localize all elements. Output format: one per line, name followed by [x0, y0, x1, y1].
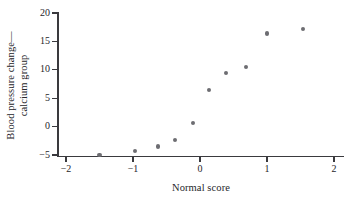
- y-tick-mark: [52, 12, 57, 13]
- x-tick-mark: [333, 157, 334, 162]
- y-tick-label: 10: [26, 63, 50, 75]
- data-point: [173, 138, 177, 142]
- y-tick-label-text: −5: [26, 149, 50, 160]
- data-point: [156, 144, 160, 148]
- y-tick-label-text: 10: [26, 63, 50, 74]
- y-axis-line: [57, 12, 59, 157]
- x-tick-mark: [65, 157, 66, 162]
- x-tick-label: −2: [55, 163, 77, 176]
- data-point: [207, 88, 211, 92]
- data-point: [301, 27, 305, 31]
- y-tick-label: 15: [26, 35, 50, 47]
- y-tick-mark: [52, 126, 57, 127]
- y-tick-label-text: 0: [26, 120, 50, 131]
- data-point: [265, 31, 269, 35]
- y-tick-mark: [52, 41, 57, 42]
- plot-area: −505101520 −2−1012: [0, 0, 347, 201]
- x-tick-label: 0: [189, 163, 211, 176]
- data-point: [133, 149, 137, 153]
- y-tick-mark: [52, 69, 57, 70]
- y-tick-label-text: 15: [26, 35, 50, 46]
- y-tick-label: 0: [26, 120, 50, 132]
- normal-probability-plot: Blood pressure change— calcium group −50…: [0, 0, 347, 201]
- y-tick-mark: [52, 154, 57, 155]
- y-tick-label: 5: [26, 92, 50, 104]
- y-tick-label: −5: [26, 149, 50, 161]
- data-point: [244, 65, 248, 69]
- x-tick-mark: [132, 157, 133, 162]
- y-tick-label-text: 5: [26, 92, 50, 103]
- y-tick-mark: [52, 98, 57, 99]
- y-tick-label-text: 20: [26, 7, 50, 18]
- x-tick-mark: [266, 157, 267, 162]
- data-point: [224, 71, 228, 75]
- y-tick-label: 20: [26, 7, 50, 19]
- x-axis-label: Normal score: [58, 182, 344, 193]
- x-tick-mark: [199, 157, 200, 162]
- x-tick-label: 1: [256, 163, 278, 176]
- x-tick-label: 2: [323, 163, 345, 176]
- data-point: [97, 153, 101, 157]
- x-tick-label: −1: [122, 163, 144, 176]
- data-point: [191, 121, 195, 125]
